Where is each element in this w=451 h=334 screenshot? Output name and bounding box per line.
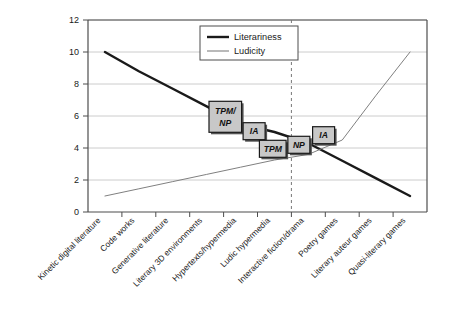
annotation-text: NP [219, 118, 231, 128]
annotation-box-TPMNP-0: TPM/NP [209, 101, 244, 134]
y-tick-label-4: 4 [74, 143, 79, 153]
annotation-text: TPM [264, 144, 283, 154]
annotation-box-IA-4: IA [313, 127, 337, 146]
category-label-0: Kinetic digital literature [36, 215, 103, 282]
chart-container: 0 2 4 6 8 10 12 TPM/NPIATPMNPIA Literari… [0, 0, 451, 334]
y-tick-label-0: 0 [74, 207, 79, 217]
annotation-box-TPM-2: TPM [259, 140, 288, 159]
category-label-9: Quasi-literary games [346, 215, 408, 277]
line-chart: 0 2 4 6 8 10 12 TPM/NPIATPMNPIA Literari… [0, 0, 451, 334]
y-axis-ticks [83, 20, 88, 212]
legend-label-ludicity: Ludicity [234, 46, 266, 56]
y-axis-tick-labels: 0 2 4 6 8 10 12 [69, 15, 79, 217]
annotation-text: IA [250, 126, 259, 136]
category-label-2: Generative literature [109, 215, 170, 276]
y-tick-label-10: 10 [69, 47, 79, 57]
annotation-box-NP-3: NP [288, 136, 312, 155]
y-tick-label-8: 8 [74, 79, 79, 89]
category-label-4: Hypertexts/hypermedia [170, 215, 238, 283]
y-tick-label-6: 6 [74, 111, 79, 121]
category-label-8: Literary auteur games [309, 215, 374, 280]
annotation-text: NP [293, 140, 305, 150]
x-axis-category-labels: Kinetic digital literatureCode worksGene… [36, 215, 408, 288]
annotation-box-IA-1: IA [243, 123, 267, 142]
legend-label-literariness: Literariness [234, 32, 282, 42]
annotation-text: TPM/ [215, 106, 237, 116]
y-tick-label-2: 2 [74, 175, 79, 185]
legend: Literariness Ludicity [200, 26, 298, 60]
category-label-6: Interactive fiction/drama [236, 215, 306, 285]
annotation-text: IA [319, 130, 328, 140]
y-tick-label-12: 12 [69, 15, 79, 25]
